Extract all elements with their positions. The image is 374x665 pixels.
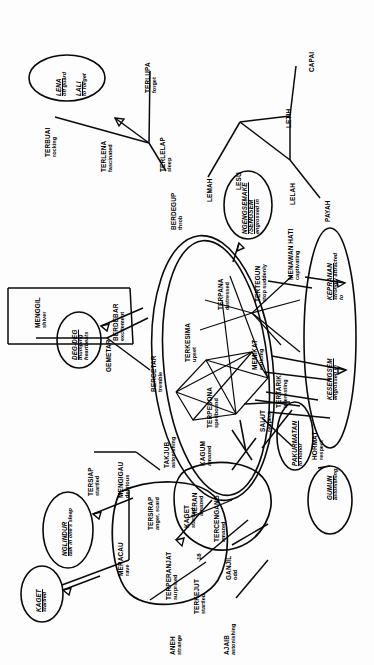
node-gloss: sleep (167, 137, 173, 172)
node-aneh: ANEH strange (170, 635, 182, 655)
node-bergetar: BERGETAR tremble (151, 355, 163, 392)
node-lelah: LELAH (290, 183, 297, 205)
node-terpana: TERPANA distressed (218, 279, 230, 310)
node-gloss: startled (201, 579, 207, 614)
node-gloss: astonishing (333, 448, 339, 500)
node-gloss: delirious (125, 462, 131, 498)
node-gloss: throb (178, 193, 184, 230)
node-terlelap: TERLELAP sleep (160, 137, 172, 172)
node-gumun: GUMUN astonishing (327, 448, 339, 500)
node-kaget-ellipse: KAGET startled (36, 572, 48, 612)
node-lali: LALI to forget (76, 73, 88, 96)
node-kaget: KAGET startled (184, 505, 196, 528)
node-gloss: stop suddenly (262, 264, 268, 302)
node-gloss: engrossed in (255, 174, 261, 234)
node-gloss: startled (191, 505, 197, 528)
node-payah: PAYAH (325, 201, 332, 222)
marker-page-number: -18 (196, 553, 202, 562)
node-capai: CAPAI (309, 52, 316, 72)
node-gloss: excitement (120, 304, 126, 341)
node-ngengsemake: NGENGSEMAKE /SENGSEM engrossed in (242, 174, 261, 234)
node-menggil: MENGGIL shiver (35, 297, 47, 328)
node-gloss: shiver (42, 297, 48, 328)
node-gloss: engrossed in (333, 348, 339, 400)
node-terkesima: TERKESIMA upset (185, 323, 197, 362)
node-tersirap: TERSIRAP anger, scard (148, 496, 160, 530)
node-gloss: startled (95, 467, 101, 496)
node-gloss: rave (125, 542, 131, 576)
node-gloss: off guard (62, 72, 68, 96)
node-gloss: talk in one's sleep (68, 498, 74, 556)
node-lemah: LEMAH (207, 179, 214, 202)
node-menawan-hati: MENAWAN HATI captivating (288, 229, 300, 280)
node-hormat: HORMAT respect (312, 432, 324, 460)
node-terlena: TERLENA fascinated (101, 141, 113, 172)
node-tersiap: TERSIAP startled (88, 467, 100, 496)
node-tertegun: TERTEGUN stop suddenly (255, 264, 267, 302)
node-tertarik: TERTARIK interesting (276, 375, 288, 408)
node-gloss: tremble (158, 355, 164, 392)
node-kesengsem: KESENGSEM engrossed in (327, 348, 339, 400)
node-gloss: astonishing (171, 437, 177, 468)
node-nglindur: NGLINDUR talk in one's sleep (62, 498, 74, 556)
node-gloss: odd (233, 556, 239, 580)
node-mengigau: MENGIGAU delirious (118, 462, 130, 498)
diagram-sheet: LENA off guard LALI to forget TERBUAI ro… (0, 0, 374, 665)
node-gloss: surprised (173, 552, 179, 600)
node-gloss: amazed (199, 493, 205, 516)
node-gloss: rocking (52, 128, 58, 157)
node-terlupa: TERLUPA forget (145, 62, 157, 93)
node-term: LEMAH (207, 179, 214, 202)
node-berdegup: BERDEGUP throb (171, 193, 183, 230)
node-term: PAYAH (325, 201, 332, 222)
node-gloss: captivating (295, 229, 301, 280)
node-gloss: amazed (207, 441, 213, 466)
node-gloss: distressed (225, 279, 231, 310)
node-tercengang: TERCENGANG amazed (214, 495, 226, 542)
node-gloss: strange (177, 635, 183, 655)
node-terbuai: TERBUAI rocking (45, 128, 57, 157)
node-takjub: TAKJUB astonishing (164, 437, 176, 468)
node-gloss: spellbound (214, 387, 220, 428)
node-terpesona: TERPESONA spellbound (207, 387, 219, 428)
node-gloss: interesting (283, 375, 289, 408)
node-deg-deg: DEG-DEG thumping heartbeats (72, 320, 90, 360)
node-terkejut: TERKEJUT startled (194, 579, 206, 614)
node-gloss: respect (267, 410, 273, 432)
node-gloss: enticing (259, 340, 265, 370)
node-pakurmatan: PAKURMATAN to honor (292, 420, 304, 466)
node-gloss: to forget (82, 73, 88, 96)
node-gloss: thumping heartbeats (78, 320, 89, 360)
node-berdebar: BERDEBAR excitement (113, 304, 125, 341)
node-term: NGENGSEMAKE /SENGSEM (242, 174, 255, 234)
node-gloss: startled (42, 572, 48, 612)
node-ganjil: GANJIL odd (226, 556, 238, 580)
node-terperanjat: TERPERANJAT surprised (166, 552, 178, 600)
node-gloss: forget (152, 62, 158, 93)
node-memikat: MEMIKAT enticing (252, 340, 264, 370)
node-term: LETIH (286, 109, 293, 128)
node-meracau: MERACAU rave (118, 542, 130, 576)
node-kagum: KAGUM amazed (200, 441, 212, 466)
node-lena: LENA off guard (56, 72, 68, 96)
node-ajaib: AJAIB astonishing (224, 624, 236, 655)
node-gloss: upset (192, 323, 198, 362)
node-gloss: astonishing (231, 624, 237, 655)
node-term: CAPAI (309, 52, 316, 72)
node-gloss: strongly attracted to (333, 248, 344, 300)
node-gloss: fascinated (108, 141, 114, 172)
node-gloss: amazed (221, 495, 227, 542)
node-gloss: to honor (298, 420, 304, 466)
node-letih: LETIH (286, 109, 293, 128)
node-gloss: respect (319, 432, 325, 460)
node-salut: SALUT respect (260, 410, 272, 432)
node-term: LELAH (290, 183, 297, 205)
node-gloss: anger, scard (155, 496, 161, 530)
node-term: GEMETAR (106, 339, 113, 372)
node-kepranan: KEPRANAN strongly attracted to (327, 248, 345, 300)
node-gemetar: GEMETAR (106, 339, 113, 372)
